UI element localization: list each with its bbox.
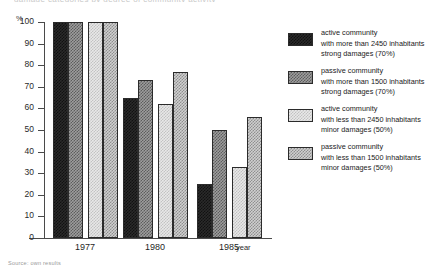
legend-label-line: strong damages (70%) bbox=[321, 87, 424, 98]
y-axis-tick-label: 40 bbox=[8, 147, 34, 156]
y-axis-tick bbox=[38, 108, 44, 109]
y-axis-tick-label: 50 bbox=[8, 125, 34, 134]
chart-page: damage categories by degree of community… bbox=[0, 0, 437, 276]
y-axis-tick bbox=[38, 195, 44, 196]
legend-label-line: with more than 1500 inhabitants bbox=[321, 77, 424, 88]
y-axis-tick-label: 10 bbox=[8, 211, 34, 220]
bar bbox=[68, 22, 83, 238]
y-axis-tick-label: 70 bbox=[8, 82, 34, 91]
bar bbox=[53, 22, 68, 238]
legend-swatch-icon bbox=[288, 33, 313, 46]
source-note: Source: own results bbox=[8, 260, 61, 266]
y-axis-tick-label: 30 bbox=[8, 168, 34, 177]
y-axis-tick bbox=[38, 65, 44, 66]
y-axis-tick-label: 20 bbox=[8, 190, 34, 199]
y-axis-tick bbox=[38, 173, 44, 174]
bar-series-container bbox=[45, 22, 273, 238]
bar bbox=[173, 72, 188, 238]
legend-label-line: minor damages (50%) bbox=[321, 125, 421, 136]
legend-swatch-icon bbox=[288, 147, 313, 160]
bar bbox=[247, 117, 262, 238]
y-axis-tick bbox=[38, 238, 44, 239]
bar bbox=[158, 104, 173, 238]
legend-item[interactable]: passive communitywith less than 1500 inh… bbox=[288, 142, 437, 178]
y-axis-tick-label: 100 bbox=[8, 17, 34, 26]
y-axis-tick bbox=[38, 44, 44, 45]
legend-item[interactable]: passive communitywith more than 1500 inh… bbox=[288, 66, 437, 102]
bar bbox=[123, 98, 138, 238]
bar bbox=[88, 22, 103, 238]
bar bbox=[138, 80, 153, 238]
y-axis-tick-label: 0 bbox=[8, 233, 34, 242]
legend-label: active communitywith less than 2450 inha… bbox=[321, 104, 421, 136]
bar-group-1980 bbox=[123, 22, 185, 238]
legend-label-line: passive community bbox=[321, 66, 424, 77]
x-axis-line bbox=[29, 238, 272, 239]
bar-group-1985 bbox=[197, 22, 259, 238]
y-axis-tick bbox=[38, 130, 44, 131]
x-axis-label-1980: 1980 bbox=[135, 242, 175, 252]
legend-label-line: minor damages (50%) bbox=[321, 163, 421, 174]
bar bbox=[197, 184, 212, 238]
bar bbox=[212, 130, 227, 238]
legend-swatch-icon bbox=[288, 109, 313, 122]
legend-label-line: with less than 2450 inhabitants bbox=[321, 115, 421, 126]
plot-area: % 1009080706050403020100 197719801985 ye… bbox=[0, 0, 280, 252]
legend-label-line: strong damages (70%) bbox=[321, 49, 424, 60]
x-axis-title: year bbox=[236, 243, 251, 252]
y-axis-tick bbox=[38, 22, 44, 23]
y-axis-tick-label: 90 bbox=[8, 39, 34, 48]
legend-label: passive communitywith more than 1500 inh… bbox=[321, 66, 424, 98]
bar-group-1977 bbox=[53, 22, 115, 238]
x-axis-label-1977: 1977 bbox=[65, 242, 105, 252]
legend-label-line: with less than 1500 inhabitants bbox=[321, 153, 421, 164]
bar bbox=[232, 167, 247, 238]
y-axis-tick-label: 60 bbox=[8, 103, 34, 112]
legend-item[interactable]: active communitywith more than 2450 inha… bbox=[288, 28, 437, 64]
legend-label-line: active community bbox=[321, 104, 421, 115]
legend-item[interactable]: active communitywith less than 2450 inha… bbox=[288, 104, 437, 140]
legend-label: active communitywith more than 2450 inha… bbox=[321, 28, 424, 60]
chart-legend: active communitywith more than 2450 inha… bbox=[288, 28, 437, 180]
legend-label: passive communitywith less than 1500 inh… bbox=[321, 142, 421, 174]
legend-label-line: with more than 2450 inhabitants bbox=[321, 39, 424, 50]
y-axis-tick bbox=[38, 216, 44, 217]
legend-label-line: passive community bbox=[321, 142, 421, 153]
legend-swatch-icon bbox=[288, 71, 313, 84]
bar bbox=[103, 22, 118, 238]
y-axis-tick bbox=[38, 152, 44, 153]
legend-label-line: active community bbox=[321, 28, 424, 39]
y-axis-tick-label: 80 bbox=[8, 60, 34, 69]
y-axis-tick bbox=[38, 87, 44, 88]
